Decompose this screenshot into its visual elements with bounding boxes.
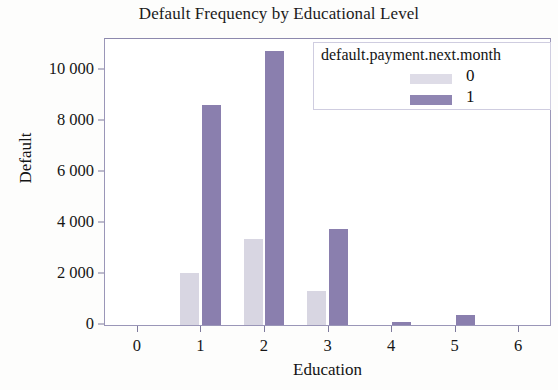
x-tick-mark	[200, 326, 201, 332]
x-tick-mark	[518, 326, 519, 332]
x-tick-label: 4	[387, 336, 395, 356]
x-tick-mark	[137, 326, 138, 332]
legend-title: default.payment.next.month	[321, 46, 501, 64]
y-tick-label: 4 000	[57, 212, 94, 232]
bar-5-series-1	[456, 315, 475, 325]
y-axis-label: Default	[16, 108, 36, 208]
x-tick-label: 2	[260, 336, 268, 356]
x-tick-label: 3	[323, 336, 331, 356]
legend-swatch	[410, 74, 452, 84]
chart-figure: Default Frequency by Educational Level 0…	[0, 0, 558, 390]
x-tick-label: 5	[451, 336, 459, 356]
x-tick-mark	[455, 326, 456, 332]
chart-title: Default Frequency by Educational Level	[0, 4, 558, 24]
bar-3-series-1	[329, 229, 348, 325]
legend-label: 0	[466, 66, 475, 86]
y-tick-label: 6 000	[57, 161, 94, 181]
legend-swatch	[410, 95, 452, 105]
x-axis-label: Education	[105, 360, 550, 380]
bar-3-series-0	[307, 291, 326, 325]
y-tick-label: 10 000	[49, 59, 94, 79]
bar-1-series-0	[180, 273, 199, 325]
chart-legend: default.payment.next.month 01	[313, 42, 551, 110]
x-tick-mark	[391, 326, 392, 332]
bar-2-series-0	[244, 239, 263, 325]
x-tick-label: 6	[514, 336, 522, 356]
bar-1-series-1	[202, 105, 221, 325]
bar-2-series-1	[265, 51, 284, 326]
legend-label: 1	[466, 87, 475, 107]
y-tick-label: 2 000	[57, 263, 94, 283]
x-axis-ticks: 0123456	[105, 326, 550, 360]
x-tick-label: 0	[133, 336, 141, 356]
x-tick-mark	[264, 326, 265, 332]
y-tick-label: 8 000	[57, 110, 94, 130]
x-tick-mark	[328, 326, 329, 332]
y-tick-label: 0	[86, 314, 94, 334]
bar-4-series-1	[392, 322, 411, 325]
x-tick-label: 1	[196, 336, 204, 356]
